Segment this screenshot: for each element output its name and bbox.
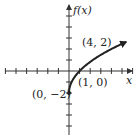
function-graph: f(x) x (4, 2) (1, 0) (0, −2) [0, 0, 139, 138]
point-label-1-0: (1, 0) [78, 76, 108, 89]
x-axis-label: x [126, 74, 133, 87]
point-label-0-neg2: (0, −2) [32, 88, 71, 101]
point-label-4-2: (4, 2) [82, 36, 112, 49]
y-axis-label: f(x) [72, 4, 92, 17]
